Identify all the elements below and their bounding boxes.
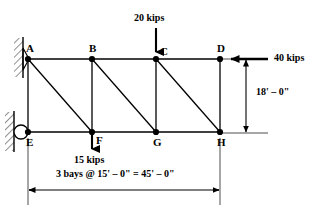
roller-support (5, 111, 28, 152)
load-label-15-kips: 15 kips (74, 155, 104, 165)
node-label-a: A (26, 43, 34, 54)
member-diagonal-ch (156, 59, 220, 132)
truss-members (28, 59, 220, 132)
roller-support-wall-hatching (5, 112, 14, 151)
member-diagonal-af (28, 59, 92, 132)
node-g-dot (153, 129, 159, 135)
node-label-h: H (217, 137, 226, 148)
pin-support-wall-hatching (14, 38, 23, 77)
truss-diagram-figure: A B C D E F G H 20 kips 40 kips 15 kips … (0, 0, 317, 215)
node-label-b: B (89, 43, 96, 54)
node-label-d: D (217, 43, 225, 54)
node-b-dot (89, 56, 95, 62)
dimension-label-span: 3 bays @ 15' – 0" = 45' – 0" (56, 169, 175, 179)
dimension-label-height: 18' – 0" (256, 87, 289, 97)
node-label-e: E (26, 137, 33, 148)
load-label-20-kips: 20 kips (134, 13, 164, 23)
node-label-g: G (153, 137, 162, 148)
node-label-f: F (96, 135, 103, 146)
node-c-dot (153, 56, 159, 62)
load-label-40-kips: 40 kips (274, 53, 304, 63)
truss-diagram-canvas (0, 0, 317, 215)
node-a-dot (25, 56, 31, 62)
member-diagonal-bg (92, 59, 156, 132)
node-e-dot (25, 129, 31, 135)
node-h-dot (217, 129, 223, 135)
node-label-c: C (160, 46, 168, 57)
